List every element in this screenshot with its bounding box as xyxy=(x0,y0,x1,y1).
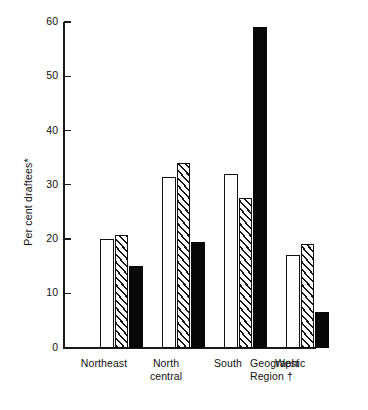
y-tick-label-40: 40 xyxy=(32,124,58,136)
y-axis-title: Per cent draftees* xyxy=(22,142,34,262)
y-tick-label-60: 60 xyxy=(32,15,58,27)
bar-open-bar-northeast xyxy=(100,239,114,348)
x-axis-title: Geographic Region † xyxy=(250,357,366,383)
y-tick-label-50: 50 xyxy=(32,69,58,81)
bar-solid-bar-northeast xyxy=(129,266,143,347)
bar-hatched-bar-northeast xyxy=(115,235,129,348)
bar-solid-bar-south xyxy=(253,27,267,347)
y-tick-label-30: 30 xyxy=(32,178,58,190)
bar-solid-bar-north-central xyxy=(191,242,205,348)
bar-group-north-central xyxy=(162,22,205,348)
bar-chart: Per cent draftees* 6050403020100 Northea… xyxy=(0,0,368,410)
bar-group-south xyxy=(224,22,267,348)
bar-group-northeast xyxy=(100,22,143,348)
y-tick-label-0: 0 xyxy=(32,341,58,353)
x-axis-line xyxy=(63,347,316,349)
plot-area xyxy=(64,22,316,348)
y-tick-label-10: 10 xyxy=(32,286,58,298)
bar-hatched-bar-south xyxy=(239,198,253,347)
y-tick-label-20: 20 xyxy=(32,232,58,244)
bar-solid-bar-west xyxy=(315,312,329,347)
bar-open-bar-north-central xyxy=(162,177,176,348)
bar-open-bar-west xyxy=(286,255,300,347)
bar-hatched-bar-north-central xyxy=(177,163,191,347)
bar-open-bar-south xyxy=(224,174,238,348)
bar-group-west xyxy=(286,22,329,348)
bar-hatched-bar-west xyxy=(301,244,315,347)
